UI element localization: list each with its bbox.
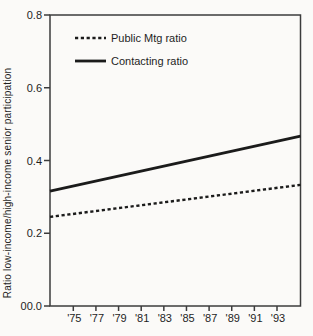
public-mtg-ratio-line	[50, 185, 301, 217]
plot-area	[0, 0, 313, 336]
y-tick-label: 00.0	[8, 299, 42, 313]
contacting-ratio-line	[50, 136, 301, 191]
legend-label: Contacting ratio	[111, 54, 188, 68]
legend-label: Public Mtg ratio	[111, 31, 187, 45]
x-tick-label: '93	[265, 312, 291, 325]
y-axis-title: Ratio low-income/high-income senior part…	[2, 23, 16, 336]
y-tick-label: 0.4	[8, 154, 42, 168]
y-tick-label: 0.6	[8, 81, 42, 95]
y-tick-label: 0.2	[8, 226, 42, 240]
senior-participation-trend-chart: Ratio low-income/high-income senior part…	[0, 0, 313, 336]
y-tick-label: 0.8	[8, 8, 42, 22]
